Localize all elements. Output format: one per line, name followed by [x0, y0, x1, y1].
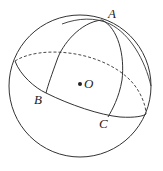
center-point-o: [78, 82, 82, 86]
label-o: O: [84, 76, 94, 91]
sphere-diagram: A O B C: [0, 0, 163, 171]
label-a: A: [107, 6, 116, 21]
arc-a-b: [46, 20, 102, 93]
label-c: C: [99, 116, 108, 131]
arc-a-c: [102, 20, 123, 117]
equator-front-arc: [15, 61, 146, 117]
label-b: B: [34, 92, 42, 107]
arc-a-upper: [62, 19, 151, 86]
